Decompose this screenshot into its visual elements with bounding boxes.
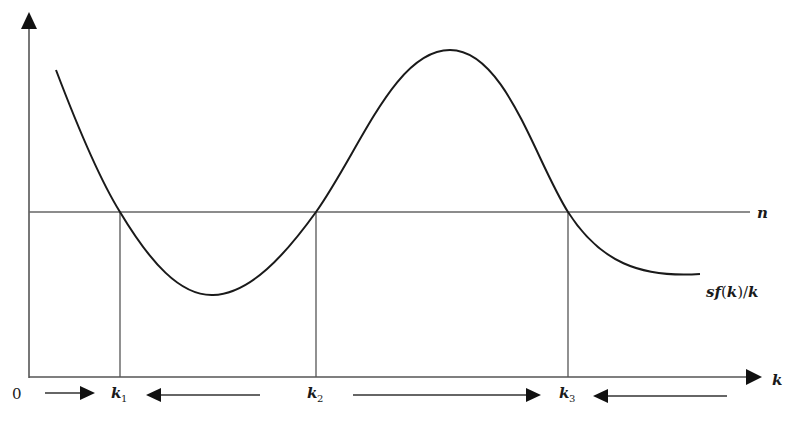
sfk-over-k-curve: [56, 50, 700, 295]
curve-label: sf(k)/k: [706, 283, 758, 301]
arrow-left-icon: [593, 389, 608, 403]
equilibrium-droplines: [120, 212, 568, 377]
arrow-right-icon: [526, 388, 541, 402]
origin-label: 0: [12, 385, 22, 403]
arrow-left-icon: [146, 388, 161, 402]
n-label: n: [757, 204, 768, 222]
svg-text:k: k: [559, 384, 569, 402]
arrow-right-icon: [80, 386, 95, 400]
y-axis: [21, 12, 37, 378]
k2-label: k 2: [307, 384, 323, 404]
solow-diagram: n sf(k)/k k 0 k 1 k 2 k 3: [0, 0, 789, 421]
y-axis-arrow-icon: [21, 12, 37, 29]
k3-label: k 3: [559, 384, 575, 404]
x-axis-arrow-icon: [746, 369, 762, 385]
svg-text:2: 2: [317, 393, 323, 404]
k1-label: k 1: [111, 384, 127, 404]
svg-text:1: 1: [121, 393, 127, 404]
svg-text:k: k: [307, 384, 317, 402]
x-axis: [29, 369, 762, 385]
dynamics-arrows: [45, 386, 727, 403]
svg-text:3: 3: [569, 393, 575, 404]
svg-text:k: k: [111, 384, 121, 402]
x-axis-label: k: [772, 371, 782, 389]
